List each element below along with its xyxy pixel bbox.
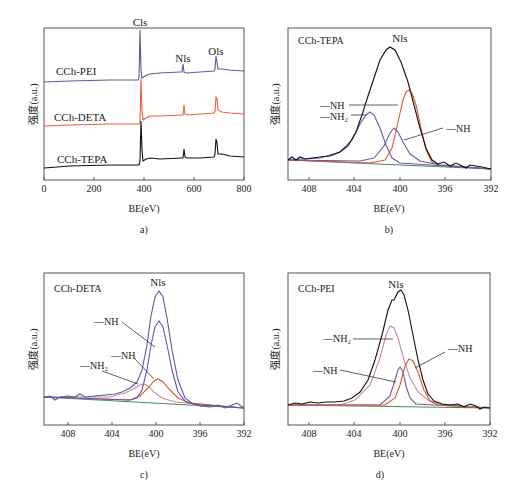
xtick-label: 600 [187, 183, 202, 194]
panel-caption: b) [385, 224, 393, 236]
xtick-label: 404 [105, 428, 120, 439]
xtick-label: 400 [393, 183, 408, 194]
panel-caption: d) [376, 469, 384, 481]
y-axis-label: 强度(a.u.) [27, 328, 40, 369]
xtick-label: 408 [61, 428, 76, 439]
xtick-label: 396 [193, 428, 208, 439]
annotation-nh: —NH [319, 100, 344, 111]
panel-d: CCh-PEI Nls —NH₂ —NH —NH 408 404 400 396… [269, 273, 498, 481]
x-axis-label: BE(eV) [373, 203, 404, 215]
xtick-label: 200 [87, 183, 102, 194]
sample-label: CCh-TEPA [298, 35, 345, 46]
x-axis-label: BE(eV) [373, 448, 404, 460]
xtick-label: 392 [483, 428, 498, 439]
x-axis-label: BE(eV) [128, 448, 159, 460]
xtick-label: 392 [237, 428, 252, 439]
panel-b: CCh-TEPA Nls —NH —NH₂ —NH 408 404 400 39… [269, 28, 499, 236]
xtick-label: 408 [302, 183, 317, 194]
panel-a: Cls Nls Ols CCh-PEI CCh-DETA CCh-TEPA 0 … [27, 16, 252, 236]
xtick-label: 0 [42, 183, 47, 194]
fit-nh-main [44, 321, 244, 408]
panel-caption: c) [140, 469, 148, 481]
xtick-label: 396 [438, 428, 453, 439]
xtick-label: 396 [438, 183, 453, 194]
annotation-nh: —NH [93, 316, 118, 327]
xtick-label: 400 [137, 183, 152, 194]
xtick-label: 392 [484, 183, 499, 194]
annotation-leaders [340, 339, 445, 382]
annotation-nh: —NH [447, 343, 472, 354]
fit-nh2 [44, 384, 244, 408]
annotation-nh: —NH [312, 365, 337, 376]
xtick-label: 404 [347, 183, 362, 194]
envelope-n1s [44, 291, 244, 408]
xtick-label: 408 [302, 428, 317, 439]
y-axis-label: 强度(a.u.) [269, 83, 282, 124]
xtick-label: 400 [149, 428, 164, 439]
sample-label: CCh-DETA [54, 283, 102, 294]
envelope-n1s [288, 47, 491, 169]
peak-label-n1s: Nls [388, 278, 403, 290]
series-label-deta: CCh-DETA [54, 111, 106, 123]
peak-label-n1s: Nls [150, 276, 165, 288]
series-label-pei: CCh-PEI [56, 65, 97, 77]
annotation-nh: —NH [110, 350, 135, 361]
figure-canvas: Cls Nls Ols CCh-PEI CCh-DETA CCh-TEPA 0 … [0, 0, 520, 504]
xtick-label: 404 [347, 428, 362, 439]
annotation-nh2: —NH₂ [79, 360, 108, 371]
y-axis-label: 强度(a.u.) [27, 83, 40, 124]
sample-label: CCh-PEI [298, 283, 335, 294]
panel-c: CCh-DETA Nls —NH —NH —NH₂ 408 404 400 39… [27, 273, 252, 481]
x-axis-label: BE(eV) [128, 203, 159, 215]
peak-label-o1s: Ols [208, 45, 223, 57]
series-label-tepa: CCh-TEPA [57, 153, 107, 165]
panel-caption: a) [140, 224, 148, 236]
peak-label-n1s: Nls [392, 32, 407, 44]
annotation-nh2: —NH₂ [322, 333, 351, 344]
annotation-nh: —NH [445, 123, 470, 134]
fit-nh-purple [288, 128, 491, 169]
xtick-label: 400 [393, 428, 408, 439]
y-axis-label: 强度(a.u.) [269, 328, 282, 369]
annotation-nh2: —NH₂ [319, 111, 348, 122]
peak-label-c1s: Cls [133, 16, 148, 28]
xtick-label: 800 [237, 183, 252, 194]
peak-label-n1s: Nls [175, 52, 190, 64]
